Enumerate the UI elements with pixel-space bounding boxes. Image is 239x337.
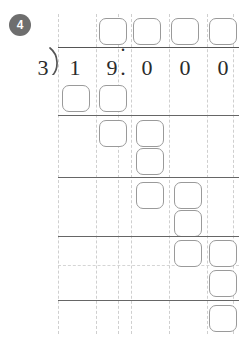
division-vinculum xyxy=(58,47,239,48)
quotient-box-tenths[interactable] xyxy=(133,18,161,45)
divisor-digit: 3 xyxy=(32,57,54,79)
column-guide-1 xyxy=(96,14,97,334)
dividend-digit-1: 1 xyxy=(64,57,86,79)
quotient-box-thousandths[interactable] xyxy=(209,18,237,45)
subtraction-rule-3 xyxy=(58,236,239,237)
dividend-digit-5: 0 xyxy=(212,57,234,79)
quotient-decimal-point: . xyxy=(118,34,128,54)
work-box-r1-c2[interactable] xyxy=(99,85,127,112)
work-box-r4-c3[interactable] xyxy=(136,182,164,209)
problem-number-badge: 4 xyxy=(9,14,31,36)
work-box-r4-c4[interactable] xyxy=(174,182,202,209)
dividend-digit-3: 0 xyxy=(136,57,158,79)
long-division-worksheet-problem: 4 . 3 1 9 . 0 0 0 xyxy=(0,0,239,337)
work-box-r5-c4[interactable] xyxy=(174,210,202,237)
subtraction-rule-4 xyxy=(58,300,239,301)
work-box-r2-c2[interactable] xyxy=(99,120,127,147)
work-box-r1-c1[interactable] xyxy=(62,85,90,112)
column-guide-3 xyxy=(169,14,170,334)
work-box-r6-c4[interactable] xyxy=(174,240,202,267)
column-guide-2 xyxy=(131,14,132,334)
subtraction-rule-2 xyxy=(58,177,239,178)
work-box-r7-c5[interactable] xyxy=(209,270,237,297)
work-box-r6-c5[interactable] xyxy=(209,240,237,267)
work-box-r2-c3[interactable] xyxy=(136,120,164,147)
dividend-digit-4: 0 xyxy=(174,57,196,79)
column-guide-4 xyxy=(207,14,208,334)
work-box-r3-c3[interactable] xyxy=(136,148,164,175)
dividend-decimal-point: . xyxy=(118,57,128,79)
work-box-r8-c5[interactable] xyxy=(209,305,237,332)
subtraction-rule-1 xyxy=(58,115,239,116)
quotient-box-hundredths[interactable] xyxy=(171,18,199,45)
